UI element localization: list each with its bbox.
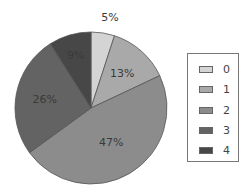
legend-label-0: 0 xyxy=(223,63,230,76)
legend-label-4: 4 xyxy=(223,144,230,157)
legend: 0 1 2 3 4 xyxy=(187,53,239,162)
legend-swatch-4 xyxy=(199,147,213,154)
legend-label-2: 2 xyxy=(223,104,230,117)
legend-swatch-1 xyxy=(199,86,213,93)
legend-item-4: 4 xyxy=(199,144,230,156)
slice-label-3: 26% xyxy=(32,93,56,106)
legend-item-1: 1 xyxy=(199,83,230,95)
legend-item-2: 2 xyxy=(199,104,230,116)
legend-swatch-3 xyxy=(199,127,213,134)
slice-label-1: 13% xyxy=(110,66,134,79)
legend-label-1: 1 xyxy=(223,83,230,96)
slice-label-4: 9% xyxy=(67,49,84,62)
legend-swatch-0 xyxy=(199,66,213,73)
legend-swatch-2 xyxy=(199,107,213,114)
legend-label-3: 3 xyxy=(223,124,230,137)
legend-item-0: 0 xyxy=(199,63,230,75)
legend-item-3: 3 xyxy=(199,124,230,136)
slice-label-2: 47% xyxy=(99,136,123,149)
slice-label-0: 5% xyxy=(101,11,118,24)
